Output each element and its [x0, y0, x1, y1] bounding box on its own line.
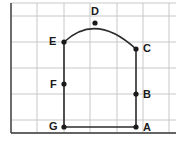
point-marker-e [61, 39, 66, 44]
point-label-b: B [143, 89, 151, 100]
point-marker-c [133, 46, 138, 51]
point-markers [61, 20, 138, 129]
point-label-a: A [143, 122, 151, 133]
point-marker-g [61, 124, 66, 129]
point-label-d: D [91, 6, 99, 17]
point-label-f: F [50, 79, 57, 90]
shape-outline-path [64, 42, 136, 127]
point-label-c: C [143, 43, 151, 54]
point-label-g: G [49, 121, 58, 132]
point-marker-f [61, 81, 66, 86]
point-label-e: E [49, 36, 56, 47]
point-marker-a [133, 124, 138, 129]
point-marker-b [133, 91, 138, 96]
point-marker-d [92, 20, 97, 25]
shape-arc-path [64, 29, 136, 49]
figure-container: ABCDEFG [0, 0, 176, 143]
